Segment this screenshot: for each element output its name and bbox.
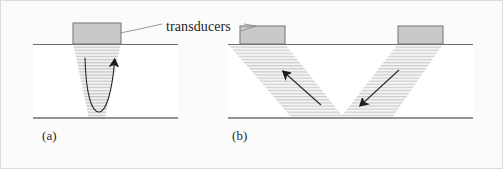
- diagram-canvas: [0, 0, 503, 169]
- transducer-a1[interactable]: [73, 23, 121, 44]
- panel-b-caption: (b): [232, 128, 247, 144]
- transducers-label: transducers: [166, 19, 231, 35]
- transducer-b2[interactable]: [398, 26, 443, 44]
- figure-container: transducers (a) (b): [0, 0, 503, 169]
- panel-a-caption: (a): [42, 128, 57, 144]
